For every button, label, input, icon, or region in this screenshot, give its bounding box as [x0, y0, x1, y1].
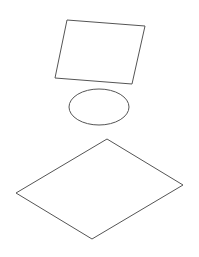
parallelogram-shape: [55, 20, 145, 84]
diagram-canvas: [0, 0, 199, 257]
ellipse-shape: [69, 89, 129, 125]
diamond-shape: [16, 139, 183, 239]
